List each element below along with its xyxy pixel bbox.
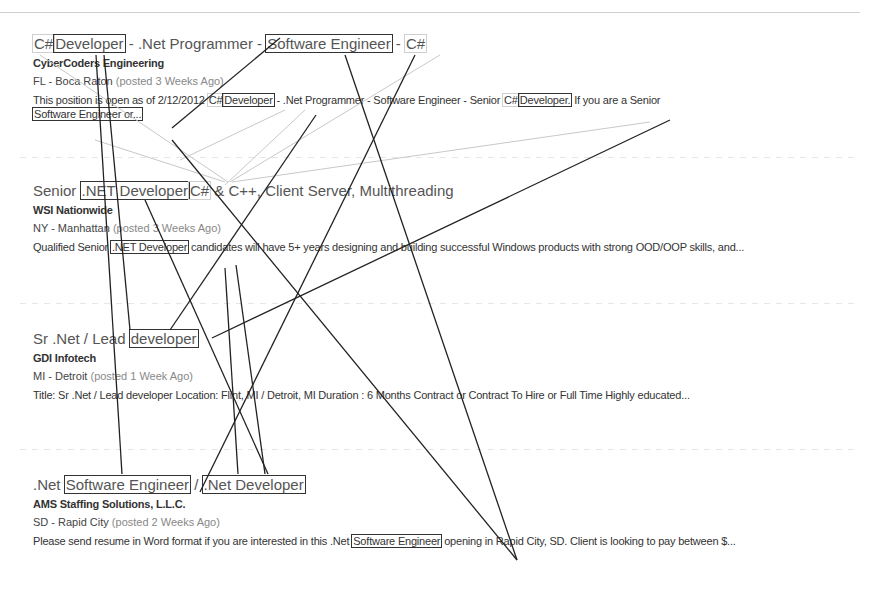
keyword-box: .Net Developer bbox=[203, 476, 305, 493]
keyword-box: .NET Developer bbox=[111, 241, 188, 253]
company-name: WSI Nationwide bbox=[33, 202, 863, 218]
job-location: SD - Rapid City (posted 2 Weeks Ago) bbox=[33, 514, 863, 530]
posted-date: (posted 2 Weeks Ago) bbox=[112, 516, 220, 528]
location-text: NY - Manhattan bbox=[33, 222, 110, 234]
title-text: & C++, Client Server, Multithreading bbox=[210, 182, 453, 199]
job-title[interactable]: Senior .NET DeveloperC# & C++, Client Se… bbox=[33, 182, 863, 200]
desc-text: This position is open as of 2/12/2012 bbox=[33, 94, 208, 106]
desc-text: - .Net Programmer - Software Engineer - … bbox=[274, 94, 503, 106]
posted-date: (posted 3 Weeks Ago) bbox=[116, 75, 224, 87]
keyword-box: Software Engineer bbox=[266, 35, 391, 52]
desc-text: candidates will have 5+ years designing … bbox=[188, 241, 744, 253]
job-title[interactable]: C#Developer - .Net Programmer - Software… bbox=[33, 35, 863, 53]
light-connector-line bbox=[95, 140, 225, 182]
light-connector-line bbox=[225, 110, 305, 185]
keyword-box-light: C# bbox=[503, 94, 519, 106]
company-name: CyberCoders Engineering bbox=[33, 55, 863, 71]
desc-text: Qualified Senior bbox=[33, 241, 111, 253]
title-text: .Net bbox=[33, 476, 65, 493]
desc-text: If you are a Senior bbox=[571, 94, 660, 106]
job-title[interactable]: Sr .Net / Lead developer bbox=[33, 330, 863, 348]
keyword-box-light: C# bbox=[33, 35, 54, 52]
job-location: NY - Manhattan (posted 3 Weeks Ago) bbox=[33, 220, 863, 236]
listing-divider bbox=[20, 303, 860, 304]
job-location: FL - Boca Raton (posted 3 Weeks Ago) bbox=[33, 73, 863, 89]
job-listing: C#Developer - .Net Programmer - Software… bbox=[33, 35, 863, 121]
job-listing: Senior .NET DeveloperC# & C++, Client Se… bbox=[33, 182, 863, 254]
job-title-link[interactable]: C#Developer - .Net Programmer - Software… bbox=[33, 35, 426, 52]
title-text: Sr .Net / Lead bbox=[33, 330, 130, 347]
job-listing: .Net Software Engineer / .Net Developer … bbox=[33, 476, 863, 548]
title-text: - bbox=[392, 35, 405, 52]
job-title-link[interactable]: .Net Software Engineer / .Net Developer bbox=[33, 476, 305, 493]
keyword-box-light: C# bbox=[189, 182, 210, 199]
keyword-box: Software Engineer bbox=[352, 535, 441, 547]
keyword-box: developer bbox=[130, 330, 198, 347]
company-name: GDI Infotech bbox=[33, 350, 863, 366]
location-text: MI - Detroit bbox=[33, 370, 87, 382]
keyword-box: Developer. bbox=[519, 94, 572, 106]
title-text: / bbox=[190, 476, 203, 493]
keyword-box-light: C# bbox=[405, 35, 426, 52]
location-text: SD - Rapid City bbox=[33, 516, 109, 528]
location-text: FL - Boca Raton bbox=[33, 75, 113, 87]
job-title[interactable]: .Net Software Engineer / .Net Developer bbox=[33, 476, 863, 494]
posted-date: (posted 1 Week Ago) bbox=[90, 370, 193, 382]
title-text: - .Net Programmer - bbox=[125, 35, 267, 52]
job-description: Qualified Senior .NET Developer candidat… bbox=[33, 240, 833, 254]
listing-divider bbox=[20, 157, 860, 158]
keyword-box: .NET Developer bbox=[81, 182, 189, 199]
job-description: Please send resume in Word format if you… bbox=[33, 534, 863, 548]
desc-text: Please send resume in Word format if you… bbox=[33, 535, 352, 547]
top-divider bbox=[0, 12, 860, 13]
light-connector-line bbox=[232, 122, 650, 182]
job-description: Title: Sr .Net / Lead developer Location… bbox=[33, 388, 823, 402]
job-title-link[interactable]: Senior .NET DeveloperC# & C++, Client Se… bbox=[33, 182, 454, 199]
job-listing: Sr .Net / Lead developer GDI Infotech MI… bbox=[33, 330, 863, 402]
listing-divider bbox=[20, 449, 860, 450]
keyword-box: Developer bbox=[223, 94, 273, 106]
keyword-box-light: C# bbox=[208, 94, 224, 106]
company-name: AMS Staffing Solutions, L.L.C. bbox=[33, 496, 863, 512]
desc-text: opening in Rapid City, SD. Client is loo… bbox=[441, 535, 735, 547]
keyword-box: Software Engineer or... bbox=[33, 108, 142, 120]
title-text: Senior bbox=[33, 182, 81, 199]
job-title-link[interactable]: Sr .Net / Lead developer bbox=[33, 330, 198, 347]
posted-date: (posted 3 Weeks Ago) bbox=[113, 222, 221, 234]
job-description: This position is open as of 2/12/2012 C#… bbox=[33, 93, 863, 121]
job-location: MI - Detroit (posted 1 Week Ago) bbox=[33, 368, 863, 384]
keyword-box: Software Engineer bbox=[65, 476, 190, 493]
keyword-box: Developer bbox=[54, 35, 124, 52]
